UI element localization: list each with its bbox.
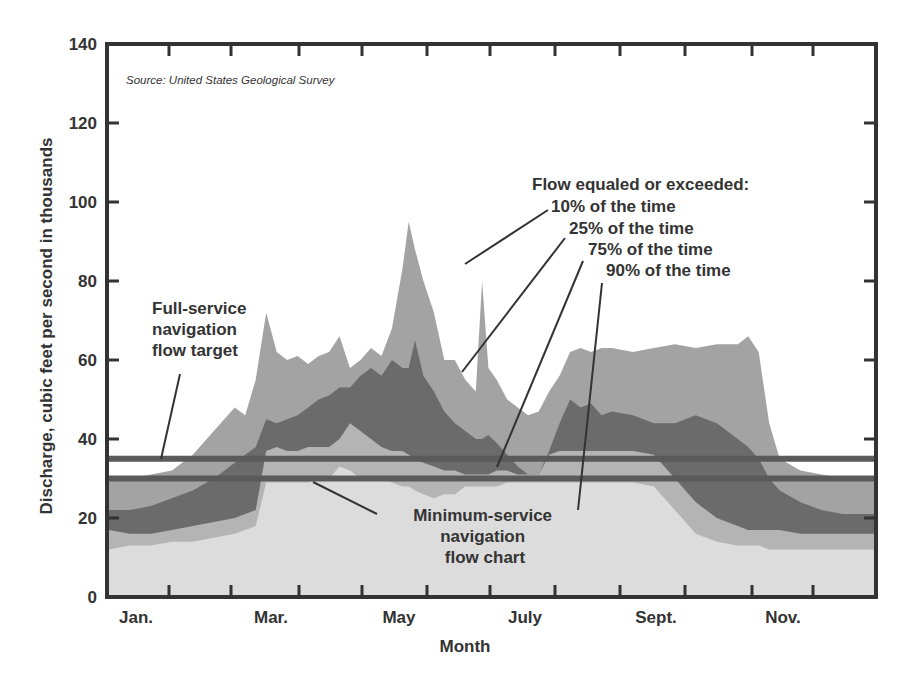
legend-title: Flow equaled or exceeded: — [532, 175, 749, 194]
x-tick-label: May — [382, 608, 416, 627]
leader-p10 — [465, 210, 548, 264]
y-tick-label: 0 — [88, 588, 97, 607]
legend-p90-label: 90% of the time — [606, 261, 731, 280]
y-tick-label: 80 — [78, 272, 97, 291]
y-axis-title: Discharge, cubic feet per second in thou… — [37, 138, 56, 515]
legend-p75-label: 75% of the time — [588, 240, 713, 259]
x-tick-label: Jan. — [119, 608, 153, 627]
y-tick-label: 20 — [78, 509, 97, 528]
y-tick-label: 40 — [78, 430, 97, 449]
source-note: Source: United States Geological Survey — [126, 74, 336, 86]
legend-p10-label: 10% of the time — [551, 197, 676, 216]
x-axis-title: Month — [440, 637, 491, 656]
leader-p25 — [462, 238, 565, 372]
flow-duration-chart: 020406080100120140 Jan.Mar.MayJulySept.N… — [0, 0, 906, 677]
x-tick-label: Sept. — [635, 608, 677, 627]
y-tick-label: 120 — [69, 114, 97, 133]
y-tick-label: 140 — [69, 35, 97, 54]
x-tick-label: Mar. — [254, 608, 288, 627]
full-service-label: Full-service navigation flow target — [152, 299, 251, 360]
y-tick-label: 100 — [69, 193, 97, 212]
y-tick-label: 60 — [78, 351, 97, 370]
y-tick-labels: 020406080100120140 — [69, 35, 97, 607]
leader-full-service — [161, 374, 180, 459]
x-tick-label: Nov. — [765, 608, 801, 627]
legend-p25-label: 25% of the time — [569, 219, 694, 238]
x-tick-label: July — [508, 608, 543, 627]
x-tick-labels: Jan.Mar.MayJulySept.Nov. — [119, 608, 801, 627]
